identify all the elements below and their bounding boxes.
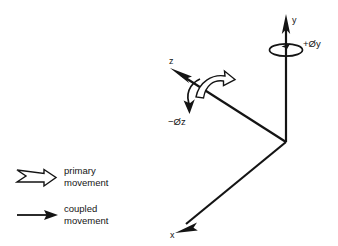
diagram-canvas: y z x +Øy − — [0, 0, 338, 246]
axis-z: z — [169, 56, 286, 142]
rotation-phi-y-label: +Øy — [303, 38, 321, 49]
rotation-phi-z-label: −Øz — [168, 116, 186, 127]
legend-coupled-line2: movement — [64, 215, 109, 226]
legend-primary-line1: primary — [64, 165, 96, 176]
axis-x-line — [186, 142, 286, 224]
axis-y-label: y — [292, 15, 297, 25]
coordinate-system-diagram: y z x +Øy − — [0, 0, 338, 246]
legend-item-coupled: coupled movement — [17, 203, 109, 226]
axis-x: x — [170, 142, 286, 240]
rotation-phi-z: −Øz — [168, 71, 235, 127]
axis-z-label: z — [169, 56, 174, 66]
legend-item-primary: primary movement — [17, 165, 109, 188]
axis-z-line — [181, 75, 286, 142]
hollow-block-arrow-icon — [17, 170, 56, 187]
legend: primary movement coupled movement — [17, 165, 109, 226]
legend-primary-line2: movement — [64, 177, 109, 188]
primary-movement-curved-arrow — [196, 71, 235, 98]
legend-coupled-line1: coupled — [64, 203, 97, 214]
axis-y: y — [282, 14, 297, 142]
axis-x-label: x — [170, 230, 175, 240]
rotation-phi-y: +Øy — [270, 38, 321, 56]
